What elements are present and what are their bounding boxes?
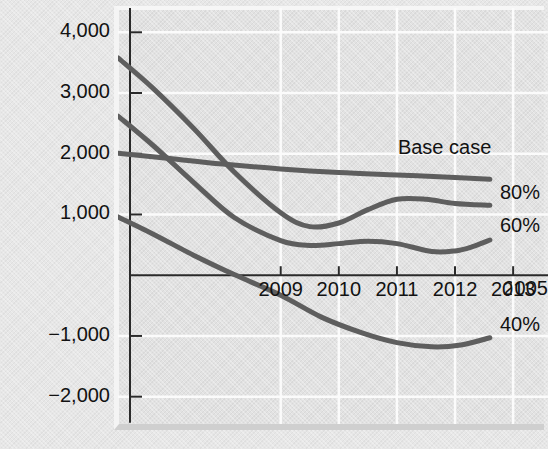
chart-svg — [118, 8, 548, 424]
y-axis-tick-label: 1,000 — [14, 201, 110, 224]
y-axis-tick-label: −1,000 — [14, 323, 110, 346]
chart-figure: Annual cash flow (£000) 4,0003,0002,0001… — [0, 0, 548, 449]
y-axis-tick-label: −2,000 — [14, 384, 110, 407]
y-axis-tick-label: 4,000 — [14, 19, 110, 42]
y-axis-tick-labels: 4,0003,0002,0001,000−1,000−2,000 — [0, 0, 110, 449]
series-label-40: 40% — [500, 313, 540, 336]
plot-area — [118, 8, 548, 424]
y-axis-tick-label: 2,000 — [14, 141, 110, 164]
series-label-base-case: Base case — [398, 136, 491, 159]
x-axis-tick-label: 2013 — [473, 278, 548, 301]
y-axis-tick-label: 3,000 — [14, 80, 110, 103]
series-label-60: 60% — [500, 214, 540, 237]
series-label-80: 80% — [500, 181, 540, 204]
